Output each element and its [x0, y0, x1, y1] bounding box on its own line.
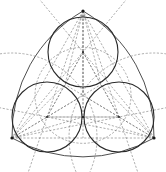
dashed-line [65, 85, 154, 139]
dashed-line [83, 11, 151, 172]
geometric-diagram [0, 0, 166, 172]
dashed-line [12, 11, 83, 138]
reuleaux-arc-bottom [12, 138, 154, 157]
center-dot [118, 116, 120, 118]
vertex-dot-bottom-left [10, 136, 13, 139]
vertex-dot-bottom-right [152, 136, 155, 139]
center-dot [46, 116, 48, 118]
construction-lines [0, 0, 166, 172]
dashed-line [12, 0, 147, 138]
dashed-line [83, 11, 154, 138]
center-dot [82, 51, 84, 53]
dashed-line [15, 11, 83, 172]
dashed-line [19, 0, 154, 138]
tangent-dot [82, 116, 84, 118]
vertex-dot-top [81, 9, 84, 12]
dashed-line [12, 85, 101, 139]
vertex-points [10, 9, 155, 139]
